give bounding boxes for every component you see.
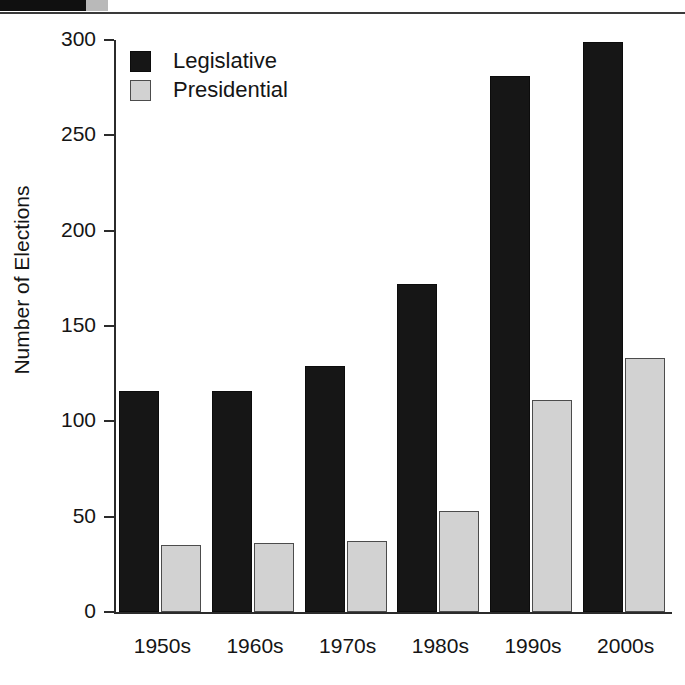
plot-area (116, 40, 672, 612)
y-axis-title: Number of Elections (10, 90, 34, 470)
x-axis-tick-label: 1990s (487, 634, 580, 658)
page-rule (0, 12, 685, 14)
bar-presidential-1950s (161, 545, 201, 612)
bar-legislative-1970s (305, 366, 345, 612)
scan-artifact-grey (86, 0, 108, 11)
x-axis-tick-label: 1960s (209, 634, 302, 658)
x-axis-tick-label: 1970s (301, 634, 394, 658)
legend-swatch-presidential-icon (130, 80, 151, 101)
y-axis-tick-label: 200 (32, 218, 96, 242)
y-axis-tick-label: 50 (32, 504, 96, 528)
bar-legislative-1950s (119, 391, 159, 612)
x-axis-tick-label: 1950s (116, 634, 209, 658)
bar-legislative-1960s (212, 391, 252, 612)
scan-artifact-dark (0, 0, 86, 11)
y-axis-tick-label: 250 (32, 122, 96, 146)
legend-label-presidential: Presidential (173, 77, 288, 103)
bar-presidential-1980s (439, 511, 479, 612)
legend-item-presidential: Presidential (130, 77, 288, 103)
legend-item-legislative: Legislative (130, 48, 288, 74)
bar-legislative-1990s (490, 76, 530, 612)
bar-presidential-1970s (347, 541, 387, 612)
chart-figure: 050100150200250300 Number of Elections 1… (0, 0, 685, 685)
bar-legislative-1980s (397, 284, 437, 612)
x-axis-tick-label: 1980s (394, 634, 487, 658)
bar-presidential-2000s (625, 358, 665, 612)
y-axis-tick-label: 300 (32, 27, 96, 51)
x-axis-tick-label: 2000s (579, 634, 672, 658)
bar-presidential-1990s (532, 400, 572, 612)
y-axis-tick-label: 0 (32, 599, 96, 623)
x-axis-line (114, 612, 672, 614)
legend-label-legislative: Legislative (173, 48, 277, 74)
y-axis-tick (104, 134, 114, 136)
bar-presidential-1960s (254, 543, 294, 612)
y-axis-tick (104, 516, 114, 518)
y-axis-tick (104, 39, 114, 41)
y-axis-tick-label: 150 (32, 313, 96, 337)
chart-legend: Legislative Presidential (130, 48, 288, 106)
y-axis-tick (104, 420, 114, 422)
bar-legislative-2000s (583, 42, 623, 612)
y-axis-tick (104, 230, 114, 232)
legend-swatch-legislative-icon (130, 51, 151, 72)
y-axis-tick (104, 325, 114, 327)
y-axis-tick (104, 611, 114, 613)
y-axis-tick-label: 100 (32, 408, 96, 432)
